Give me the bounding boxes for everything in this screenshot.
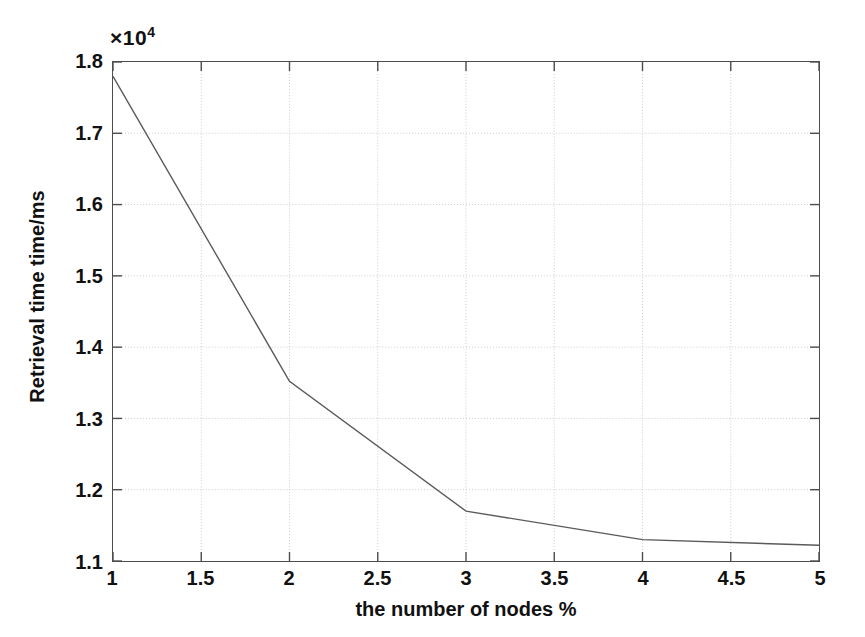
x-axis-tick-labels: 11.522.533.544.55 bbox=[0, 0, 865, 637]
x-axis-tick-label: 2.5 bbox=[343, 567, 413, 590]
x-axis-tick-label: 4 bbox=[608, 567, 678, 590]
x-axis-tick-label: 1.5 bbox=[166, 567, 236, 590]
x-axis-tick-label: 1 bbox=[77, 567, 147, 590]
x-axis-title: the number of nodes % bbox=[112, 598, 820, 621]
x-axis-tick-label: 5 bbox=[785, 567, 855, 590]
x-axis-tick-label: 3.5 bbox=[520, 567, 590, 590]
x-axis-tick-label: 4.5 bbox=[697, 567, 767, 590]
x-axis-tick-label: 3 bbox=[431, 567, 501, 590]
chart-figure: ×104 Retrieval time time/ms 1.11.21.31.4… bbox=[0, 0, 865, 637]
x-axis-tick-label: 2 bbox=[254, 567, 324, 590]
